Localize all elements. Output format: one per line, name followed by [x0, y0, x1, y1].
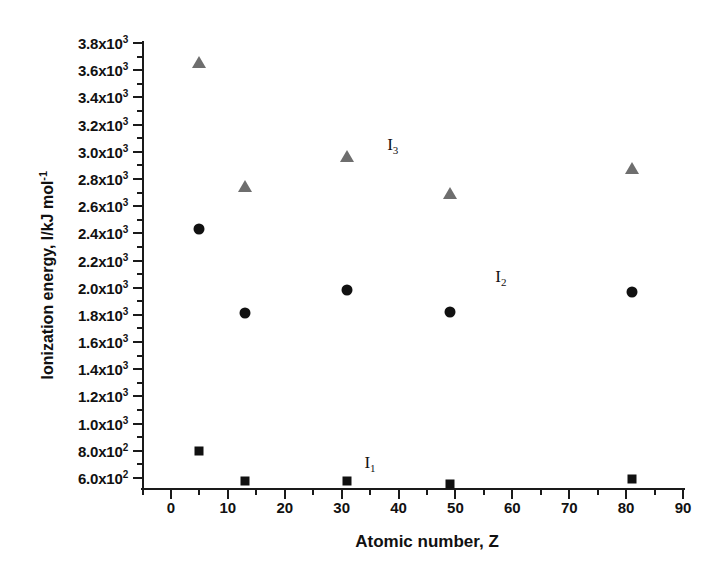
data-point-i2: [444, 307, 455, 318]
y-axis-tick: [133, 232, 142, 234]
x-axis-line: [141, 488, 685, 490]
y-axis-minor-tick: [137, 192, 142, 194]
y-axis-title: Ionization energy, I/kJ mol-1: [37, 80, 57, 470]
data-point-i1: [343, 476, 352, 485]
x-axis-tick: [511, 490, 513, 499]
x-axis-minor-tick: [142, 490, 144, 495]
x-axis-minor-tick: [654, 490, 656, 495]
data-point-i1: [240, 476, 249, 485]
y-axis-minor-tick: [137, 300, 142, 302]
y-axis-tick: [133, 423, 142, 425]
y-axis-minor-tick: [137, 409, 142, 411]
data-point-i3: [340, 150, 354, 162]
y-axis-tick-label: 1.4x103: [78, 360, 128, 378]
y-axis-minor-tick: [137, 164, 142, 166]
x-axis-tick-label: 90: [675, 499, 692, 516]
x-axis-tick: [398, 490, 400, 499]
x-axis-tick: [227, 490, 229, 499]
series-label-i2: I2: [495, 267, 506, 288]
x-axis-tick-label: 50: [447, 499, 464, 516]
y-axis-minor-tick: [137, 219, 142, 221]
x-axis-tick-label: 10: [220, 499, 237, 516]
x-axis-tick: [625, 490, 627, 499]
y-axis-tick: [133, 477, 142, 479]
x-axis-tick: [682, 490, 684, 499]
x-axis-minor-tick: [255, 490, 257, 495]
y-axis-tick-label: 2.6x103: [78, 197, 128, 215]
data-point-i1: [195, 446, 204, 455]
y-axis-tick: [133, 287, 142, 289]
data-point-i2: [626, 286, 637, 297]
y-axis-tick-label: 3.8x103: [78, 34, 128, 52]
data-point-i3: [238, 180, 252, 192]
y-axis-tick: [133, 42, 142, 44]
x-axis-tick-label: 20: [276, 499, 293, 516]
data-point-i2: [342, 285, 353, 296]
y-axis-minor-tick: [137, 56, 142, 58]
x-axis-minor-tick: [597, 490, 599, 495]
x-axis-minor-tick: [540, 490, 542, 495]
x-axis-tick-label: 30: [333, 499, 350, 516]
data-point-i2: [239, 307, 250, 318]
x-axis-minor-tick: [426, 490, 428, 495]
y-axis-tick: [133, 151, 142, 153]
y-axis-tick: [133, 69, 142, 71]
y-axis-minor-tick: [137, 327, 142, 329]
y-axis-tick-label: 3.2x103: [78, 116, 128, 134]
y-axis-tick-label: 2.4x103: [78, 224, 128, 242]
plot-area: [171, 43, 683, 478]
y-axis-minor-tick: [137, 83, 142, 85]
y-axis-tick: [133, 450, 142, 452]
y-axis-minor-tick: [137, 246, 142, 248]
y-axis-line: [142, 41, 144, 490]
x-axis-tick-label: 70: [561, 499, 578, 516]
y-axis-tick-label: 3.0x103: [78, 143, 128, 161]
y-axis-minor-tick: [137, 110, 142, 112]
x-axis-tick-label: 0: [167, 499, 175, 516]
y-axis-tick: [133, 341, 142, 343]
x-axis-tick: [284, 490, 286, 499]
y-axis-tick-label: 3.6x103: [78, 61, 128, 79]
y-axis-minor-tick: [137, 273, 142, 275]
x-axis-minor-tick: [198, 490, 200, 495]
series-label-i3: I3: [387, 135, 398, 156]
y-axis-title-exponent: -1: [37, 171, 49, 181]
y-axis-tick: [133, 395, 142, 397]
y-axis-minor-tick: [137, 463, 142, 465]
y-axis-tick: [133, 260, 142, 262]
data-point-i2: [194, 224, 205, 235]
x-axis-title: Atomic number, Z: [171, 532, 683, 552]
y-axis-tick: [133, 205, 142, 207]
x-axis-tick-label: 60: [504, 499, 521, 516]
y-axis-tick-label: 3.4x103: [78, 88, 128, 106]
x-axis-tick: [170, 490, 172, 499]
y-axis-tick: [133, 124, 142, 126]
x-axis-tick: [568, 490, 570, 499]
y-axis-tick: [133, 178, 142, 180]
data-point-i1: [445, 479, 454, 488]
y-axis-minor-tick: [137, 355, 142, 357]
y-axis-tick-label: 2.8x103: [78, 170, 128, 188]
y-axis-tick-label: 6.0x102: [78, 469, 128, 487]
y-axis-tick-label: 2.0x103: [78, 279, 128, 297]
y-axis-title-text: Ionization energy, I/kJ mol: [39, 181, 56, 380]
y-axis-minor-tick: [137, 137, 142, 139]
x-axis-minor-tick: [369, 490, 371, 495]
y-axis-tick-label: 1.6x103: [78, 333, 128, 351]
y-axis-minor-tick: [137, 436, 142, 438]
ionization-energy-chart: 6.0x1028.0x1021.0x1031.2x1031.4x1031.6x1…: [0, 0, 726, 576]
x-axis-tick-label: 40: [390, 499, 407, 516]
x-axis-tick-label: 80: [618, 499, 635, 516]
data-point-i3: [625, 162, 639, 174]
x-axis-minor-tick: [312, 490, 314, 495]
x-axis-minor-tick: [483, 490, 485, 495]
y-axis-tick-label: 1.2x103: [78, 387, 128, 405]
x-axis-tick: [341, 490, 343, 499]
y-axis-minor-tick: [137, 382, 142, 384]
data-point-i1: [627, 475, 636, 484]
data-point-i3: [443, 187, 457, 199]
series-label-i1: I1: [364, 453, 375, 474]
data-point-i3: [192, 56, 206, 68]
y-axis-tick-label: 1.0x103: [78, 415, 128, 433]
y-axis-tick-label: 8.0x102: [78, 442, 128, 460]
